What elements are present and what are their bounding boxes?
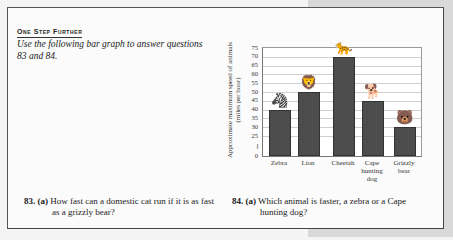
axis-break-icon: ≀ <box>256 142 259 151</box>
y-tick-label: 75 <box>238 44 258 51</box>
y-tick-label: 35 <box>238 114 258 121</box>
instructions-text: Use the following bar graph to answer qu… <box>17 39 207 62</box>
y-tick-label: 25 <box>238 132 258 139</box>
x-tick-label: Grizzlybear <box>386 159 422 175</box>
y-tick-label: 40 <box>238 105 258 112</box>
bar-cape-hunting-dog <box>362 101 384 156</box>
cheetah-icon: 🐆 <box>328 41 358 55</box>
y-tick-label: 50 <box>238 88 258 95</box>
bar-cheetah <box>333 57 355 156</box>
bar-grizzly-bear <box>394 127 416 156</box>
y-tick-label: 0 <box>238 152 258 159</box>
question-84: 84. (a) Which animal is faster, a zebra … <box>232 196 432 218</box>
y-tick-label: 70 <box>238 52 258 59</box>
y-tick-label: 30 <box>238 123 258 130</box>
dog-icon: 🐕 <box>357 85 387 99</box>
x-tick-label: Capehuntingdog <box>354 159 390 183</box>
y-tick-label: 65 <box>238 61 258 68</box>
question-text: Which animal is faster, a zebra or a Cap… <box>258 196 406 206</box>
y-tick-label: 55 <box>238 79 258 86</box>
question-text-continued: as a grizzly bear? <box>24 207 224 218</box>
question-number: 83. <box>24 196 35 206</box>
question-part: (a) <box>246 196 257 206</box>
zebra-icon: 🦓 <box>264 94 294 108</box>
section-heading: One Step Further <box>17 27 82 38</box>
question-number: 84. <box>232 196 243 206</box>
lion-icon: 🦁 <box>293 76 323 90</box>
question-text: How fast can a domestic cat run if it is… <box>50 196 214 206</box>
y-tick-label: 60 <box>238 70 258 77</box>
bar-zebra <box>269 110 291 156</box>
bear-icon: 🐻 <box>389 111 419 125</box>
x-tick-label: Lion <box>290 159 326 167</box>
question-part: (a) <box>38 196 49 206</box>
bar-lion <box>298 92 320 156</box>
y-tick-label: 45 <box>238 96 258 103</box>
question-text-continued: hunting dog? <box>232 207 432 218</box>
question-83: 83. (a) How fast can a domestic cat run … <box>24 196 224 218</box>
